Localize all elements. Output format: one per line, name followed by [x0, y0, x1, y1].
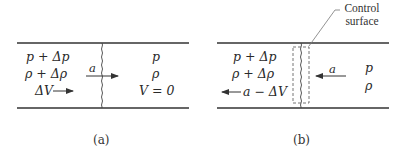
panel-b-downstream-density: ρ	[365, 80, 372, 93]
panel-a-downstream-pressure: p	[152, 51, 160, 64]
control-surface-label-line2: surface	[338, 15, 386, 28]
panel-a-upstream-pressure: p + Δp	[26, 51, 69, 64]
panel-b-upstream-density: ρ + Δρ	[232, 68, 274, 81]
panel-b-upstream-pressure: p + Δp	[233, 51, 276, 64]
control-surface-label-line1: Control	[338, 2, 386, 15]
control-surface-label: Control surface	[338, 2, 386, 28]
panel-b-downstream-pressure: p	[365, 62, 373, 75]
panel-a-caption: (a)	[93, 134, 110, 146]
panel-b-caption: (b)	[293, 134, 310, 146]
panel-b-wave-speed: a	[329, 64, 336, 76]
panel-b-wavefront	[301, 43, 302, 108]
control-surface-leader	[309, 10, 340, 46]
panel-a-downstream-density: ρ	[152, 68, 159, 81]
pressure-wave-figure: p + Δp ρ + Δρ ΔV a p ρ V = 0 (a) p + Δp …	[0, 0, 404, 162]
panel-a-upstream-density: ρ + Δρ	[25, 68, 67, 81]
panel-a-upstream-velocity: ΔV	[35, 85, 53, 98]
panel-b-upstream-velocity: a − ΔV	[243, 86, 287, 99]
panel-a-downstream-velocity: V = 0	[139, 85, 174, 98]
panel-a-wave-speed: a	[89, 63, 96, 75]
